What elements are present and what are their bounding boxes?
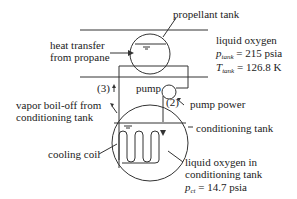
stream-2-label: (2): [166, 96, 179, 108]
vapor-leader: [112, 106, 117, 113]
t-tank-label: Ttank = 126.8 K: [216, 61, 281, 77]
cooling-coil: [119, 131, 159, 163]
conditioning-tank-label: conditioning tank: [196, 122, 273, 134]
lox-ct-label-line1: liquid oxygen in: [185, 156, 257, 168]
cooling-coil-leader: [99, 144, 117, 154]
p-ct-label: pct = 14.7 psia: [185, 181, 247, 197]
lox-ct-label-line2: conditioning tank: [185, 168, 262, 180]
heat-transfer-arrowhead: [128, 50, 134, 56]
cooling-coil-label: cooling coil: [48, 148, 100, 160]
liquid-oxygen-label: liquid oxygen: [216, 34, 277, 46]
vapor-label-line2: conditioning tank: [16, 111, 93, 123]
pump-power-label: pump power: [190, 98, 245, 110]
lox-ct-leader: [168, 151, 183, 162]
vapor-arrowhead: [110, 103, 114, 107]
vapor-label-line1: vapor boil-off from: [16, 99, 101, 111]
conditioning-tank-circle: [112, 105, 188, 181]
pump-outlet-arrowhead: [160, 130, 166, 136]
stream-3-label: (3): [97, 82, 110, 94]
propellant-tank-leader: [163, 18, 176, 37]
propellant-tank-label: propellant tank: [173, 8, 239, 20]
heat-transfer-label-line1: heat transfer: [50, 39, 105, 51]
propellant-tank-sphere: [130, 34, 170, 74]
pump-label: pump: [136, 82, 161, 94]
stream-3-arrowhead: [112, 84, 116, 88]
heat-transfer-label-line2: from propane: [50, 51, 110, 63]
